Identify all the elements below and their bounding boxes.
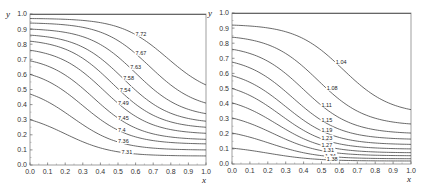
x-tick-label: 0.8 (166, 168, 176, 175)
y-tick-label: 0.0 (17, 161, 27, 168)
y-tick-label: 0.4 (219, 100, 229, 107)
y-tick-label: 0.3 (219, 115, 229, 122)
contour-label: 7.67 (136, 50, 147, 56)
y-axis-label: y (207, 8, 212, 18)
right-contour-chart: 0.00.10.20.30.40.50.60.70.80.91.00.00.10… (207, 8, 416, 184)
contour-line (30, 19, 206, 85)
x-tick-label: 0.1 (43, 168, 53, 175)
y-tick-label: 0.7 (17, 56, 27, 63)
contour-label: 1.11 (322, 102, 332, 108)
x-tick-label: 0.3 (78, 168, 88, 175)
contour-label: 1.15 (322, 117, 333, 123)
left-contour-chart: 0.00.10.20.30.40.50.60.70.80.91.00.00.10… (5, 9, 211, 185)
contour-line (232, 148, 411, 161)
x-axis-label: x (406, 174, 411, 184)
contour-label: 1.04 (336, 59, 347, 65)
y-tick-label: 0.9 (219, 25, 229, 32)
x-tick-label: 0.7 (148, 168, 158, 175)
contour-line (232, 25, 411, 110)
x-tick-label: 0.0 (25, 168, 35, 175)
contour-line (30, 50, 206, 133)
figure: 0.00.10.20.30.40.50.60.70.80.91.00.00.10… (0, 0, 422, 192)
contour-label: 7.36 (118, 138, 129, 144)
contour-line (232, 76, 411, 145)
contour-label: 7.31 (122, 149, 133, 155)
y-tick-label: 0.3 (17, 116, 27, 123)
x-axis-label: x (201, 175, 206, 185)
x-tick-label: 0.6 (131, 168, 141, 175)
y-tick-label: 0.7 (219, 55, 229, 62)
y-axis-label: y (5, 9, 10, 19)
y-tick-label: 0.5 (17, 86, 27, 93)
x-tick-label: 0.3 (281, 167, 291, 174)
contour-line (30, 35, 206, 121)
x-tick-label: 0.5 (317, 167, 327, 174)
contour-line (30, 74, 206, 143)
contour-label: 7.72 (136, 31, 147, 37)
y-tick-label: 0.6 (17, 71, 27, 78)
x-tick-label: 0.9 (388, 167, 398, 174)
y-tick-label: 0.1 (17, 146, 27, 153)
y-tick-label: 1.0 (219, 9, 229, 16)
x-tick-label: 0.6 (335, 167, 345, 174)
y-tick-label: 0.2 (17, 131, 27, 138)
contour-line (30, 23, 206, 103)
x-tick-label: 0.5 (113, 168, 123, 175)
x-tick-label: 0.4 (96, 168, 106, 175)
y-tick-label: 0.4 (17, 101, 27, 108)
y-tick-label: 0.9 (17, 26, 27, 33)
y-tick-label: 0.6 (219, 70, 229, 77)
y-tick-label: 0.2 (219, 130, 229, 137)
contour-label: 7.4 (118, 127, 126, 133)
contour-label: 7.45 (118, 115, 129, 121)
contour-label: 1.08 (327, 85, 338, 91)
y-tick-label: 0.8 (17, 41, 27, 48)
x-tick-label: 0.0 (227, 167, 237, 174)
x-tick-label: 0.4 (299, 167, 309, 174)
contour-label: 1.23 (322, 135, 333, 141)
y-tick-label: 0.8 (219, 40, 229, 47)
contour-label: 1.19 (322, 127, 333, 133)
y-tick-label: 0.5 (219, 85, 229, 92)
contour-label: 7.58 (123, 75, 134, 81)
contour-label: 7.49 (118, 100, 129, 106)
x-tick-label: 1.0 (406, 167, 416, 174)
contour-label: 7.54 (120, 87, 131, 93)
x-tick-label: 0.2 (263, 167, 273, 174)
contour-label: 1.38 (327, 156, 338, 162)
y-tick-label: 0.0 (219, 160, 229, 167)
contour-label: 7.63 (130, 64, 141, 70)
x-tick-label: 0.1 (245, 167, 255, 174)
x-tick-label: 0.9 (184, 168, 194, 175)
y-tick-label: 0.1 (219, 145, 229, 152)
x-tick-label: 0.7 (352, 167, 362, 174)
x-tick-label: 0.8 (370, 167, 380, 174)
x-tick-label: 1.0 (201, 168, 211, 175)
y-tick-label: 1.0 (17, 10, 27, 17)
x-tick-label: 0.2 (60, 168, 70, 175)
